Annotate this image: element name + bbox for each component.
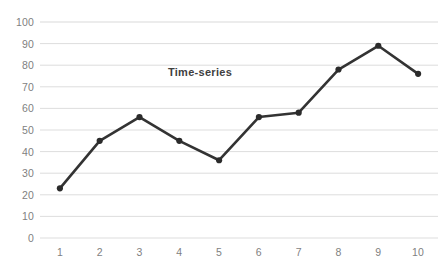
x-axis-tick-label: 3 <box>120 246 160 262</box>
data-point <box>256 114 262 120</box>
x-axis-tick-label: 1 <box>40 246 80 262</box>
x-axis-tick-label: 8 <box>319 246 359 262</box>
x-axis-tick-label: 5 <box>199 246 239 262</box>
y-axis-tick-label: 10 <box>4 211 34 221</box>
data-point <box>415 71 421 77</box>
x-axis-tick-label: 2 <box>80 246 120 262</box>
data-point <box>216 157 222 163</box>
y-axis-tick-label: 90 <box>4 39 34 49</box>
data-point <box>97 138 103 144</box>
y-axis: 0102030405060708090100 <box>0 0 34 270</box>
data-point <box>335 66 341 72</box>
y-axis-tick-label: 20 <box>4 190 34 200</box>
x-axis-tick-label: 6 <box>239 246 279 262</box>
data-series-time-series <box>40 22 438 238</box>
x-axis: 12345678910 <box>40 246 438 262</box>
data-point <box>176 138 182 144</box>
x-axis-tick-label: 9 <box>358 246 398 262</box>
x-axis-tick-label: 4 <box>159 246 199 262</box>
x-axis-tick-label: 10 <box>398 246 438 262</box>
data-point <box>296 110 302 116</box>
data-point <box>57 185 63 191</box>
y-axis-tick-label: 50 <box>4 125 34 135</box>
line-chart: 0102030405060708090100 Time-series 12345… <box>0 0 448 270</box>
x-axis-tick-label: 7 <box>279 246 319 262</box>
plot-area <box>40 22 438 238</box>
data-point <box>136 114 142 120</box>
y-axis-tick-label: 80 <box>4 60 34 70</box>
y-axis-tick-label: 40 <box>4 147 34 157</box>
data-point <box>375 43 381 49</box>
y-axis-tick-label: 60 <box>4 103 34 113</box>
y-axis-tick-label: 30 <box>4 168 34 178</box>
y-axis-tick-label: 100 <box>4 17 34 27</box>
y-axis-tick-label: 70 <box>4 82 34 92</box>
y-axis-tick-label: 0 <box>4 233 34 243</box>
chart-title: Time-series <box>140 66 260 78</box>
